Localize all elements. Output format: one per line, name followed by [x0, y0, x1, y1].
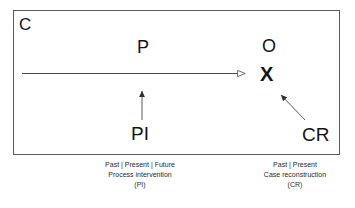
caption-left-abbreviation: (PI): [80, 180, 200, 190]
node-label-x: X: [260, 64, 273, 84]
node-label-p: P: [137, 38, 149, 56]
caption-case-reconstruction: Past | Present Case reconstruction (CR): [235, 160, 355, 190]
caption-process-intervention: Past | Present | Future Process interven…: [80, 160, 200, 190]
context-box: [13, 10, 340, 155]
caption-left-timeframe: Past | Present | Future: [80, 160, 200, 170]
node-label-o: O: [262, 37, 276, 55]
node-label-cr: CR: [302, 125, 329, 144]
caption-right-timeframe: Past | Present: [235, 160, 355, 170]
node-label-c: C: [19, 16, 31, 33]
node-label-pi: PI: [131, 124, 149, 143]
caption-right-abbreviation: (CR): [235, 180, 355, 190]
diagram-canvas: C P O X PI CR Past | Present | Future Pr…: [0, 0, 355, 208]
caption-right-title: Case reconstruction: [235, 170, 355, 180]
caption-left-title: Process intervention: [80, 170, 200, 180]
